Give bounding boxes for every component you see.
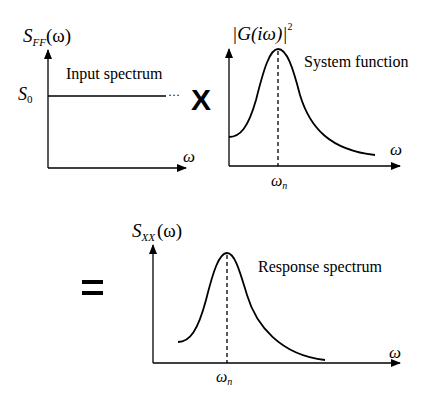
system-caption: System function (304, 53, 408, 71)
multiply-operator: X (191, 83, 211, 116)
input-continuation-dots: ··· (168, 88, 180, 102)
response-caption: Response spectrum (258, 258, 383, 276)
input-caption: Input spectrum (66, 65, 163, 83)
response-spectrum-panel: SXX(ω) Response spectrum ω ωn (132, 220, 401, 387)
input-level-label: S0 (18, 84, 33, 105)
system-y-label: |G(iω)|2 (232, 21, 293, 45)
spectrum-diagram: ··· SFF(ω) S0 Input spectrum ω X |G(iω)|… (0, 0, 432, 402)
response-y-label: SXX(ω) (132, 220, 182, 243)
input-y-label: SFF(ω) (23, 25, 71, 48)
response-x-label: ω (389, 343, 401, 362)
input-x-label: ω (183, 147, 195, 166)
system-function-panel: |G(iω)|2 System function ω ωn (229, 21, 408, 191)
input-spectrum-panel: ··· SFF(ω) S0 Input spectrum ω (18, 25, 195, 168)
response-omega-n-label: ωn (216, 368, 232, 387)
system-x-label: ω (390, 140, 402, 159)
system-omega-n-label: ωn (271, 172, 287, 191)
equals-operator: = (82, 280, 103, 298)
